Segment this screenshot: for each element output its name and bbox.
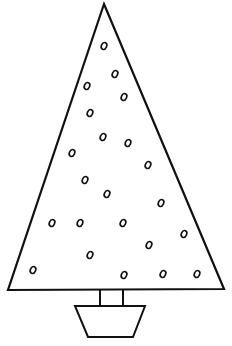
ornament <box>159 270 167 279</box>
ornament <box>76 219 84 228</box>
ornament <box>157 199 165 208</box>
ornament <box>100 42 108 51</box>
ornaments-group <box>29 42 201 280</box>
ornament <box>180 230 188 239</box>
ornament <box>68 149 76 158</box>
ornament <box>145 241 153 250</box>
tree-trunk <box>100 290 123 306</box>
ornament <box>120 271 128 280</box>
ornament <box>81 176 89 185</box>
tree-pot <box>75 306 145 337</box>
ornament <box>83 82 91 91</box>
christmas-tree-drawing <box>0 0 232 346</box>
ornament <box>103 190 111 199</box>
tree-outline <box>8 4 224 290</box>
ornament <box>99 133 107 142</box>
ornament <box>86 109 94 118</box>
ornament <box>193 270 201 279</box>
ornament <box>86 251 94 260</box>
ornament <box>144 161 152 170</box>
ornament <box>29 266 37 275</box>
ornament <box>48 219 56 228</box>
ornament <box>111 70 119 79</box>
ornament <box>120 93 128 102</box>
ornament <box>124 139 132 148</box>
ornament <box>119 219 127 228</box>
